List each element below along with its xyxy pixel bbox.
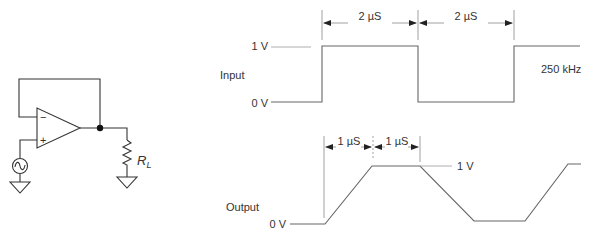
junction-dot-icon [97,125,103,131]
load-resistor-label: RL [137,153,151,170]
input-waveform-panel: Input 1 V 0 V 250 kHz 2 µS 2 µS [220,10,581,109]
inverting-input-label: − [40,111,46,123]
sine-glyph-icon [15,162,25,169]
output-interval-1-label: 1 µS [338,135,361,147]
ground-icon [117,177,137,188]
resistor-icon [123,140,131,177]
output-wire [80,128,127,140]
ground-icon [10,182,30,193]
frequency-label: 250 kHz [541,63,581,75]
output-interval-2-label: 1 µS [386,135,409,147]
output-waveform-panel: Output 0 V 1 V 1 µS 1 µS [226,135,581,230]
output-label: Output [226,201,259,213]
feedback-wire [19,79,100,127]
output-high-level-label: 1 V [457,160,474,172]
input-label: Input [220,69,244,81]
input-square-wave [271,46,580,102]
input-interval-1-label: 2 µS [359,10,382,22]
input-low-level-label: 0 V [251,97,268,109]
diagram-canvas: − + RL Input 1 V 0 V 250 kHz 2 µS 2 µS [0,0,589,238]
input-high-level-label: 1 V [251,40,268,52]
output-slew-limited-wave [290,164,581,224]
output-low-level-label: 0 V [269,218,286,230]
input-interval-2-label: 2 µS [455,10,478,22]
noninverting-input-label: + [40,134,46,146]
input-wire [20,140,37,158]
voltage-follower-circuit: − + RL [10,79,151,193]
